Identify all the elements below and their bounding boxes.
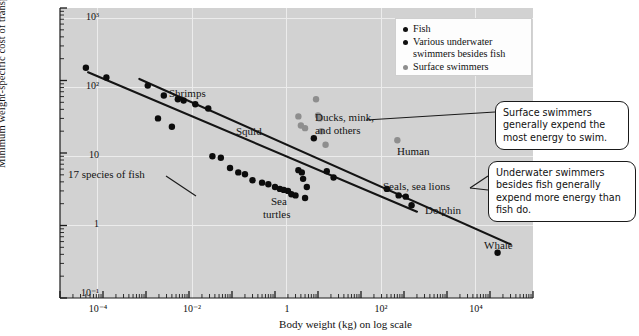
annotation-ducks-line2: and others	[315, 125, 361, 136]
legend-item-fish: Fish	[401, 23, 525, 34]
y-axis-title: Minimum weight-specific cost of transpor…	[0, 0, 7, 168]
legend-item-surface: Surface swimmers	[401, 61, 525, 72]
y-tick-label: 10²	[86, 80, 99, 91]
gridline-vertical	[192, 8, 193, 298]
annotation-seals: Seals, sea lions	[383, 181, 450, 192]
legend-label: Surface swimmers	[413, 61, 489, 72]
x-tick-label: 1	[266, 303, 308, 314]
annotation-shrimps: Shrimps	[169, 88, 206, 99]
x-axis-title: Body weight (kg) on log scale	[0, 318, 639, 330]
x-tick-label: 10⁻²	[171, 303, 213, 314]
annotation-fish-line: 17 species of fish	[68, 169, 145, 180]
gridline-horizontal	[60, 87, 533, 88]
chart-legend: Fish Various underwater swimmers besides…	[395, 18, 532, 76]
legend-marker-icon	[403, 27, 408, 32]
legend-label: Various underwater swimmers besides fish	[413, 36, 525, 59]
annotation-sea-turtles-line2: turtles	[263, 209, 291, 220]
y-tick-label: 10⁻¹	[81, 287, 99, 298]
x-tick-label: 10⁻⁴	[77, 303, 119, 314]
legend-item-underwater: Various underwater swimmers besides fish	[401, 36, 525, 59]
y-tick-label: 10³	[86, 11, 99, 22]
gridline-vertical	[381, 8, 382, 298]
legend-marker-icon	[403, 40, 408, 45]
x-tick-label: 10²	[360, 303, 402, 314]
gridline-horizontal	[60, 156, 533, 157]
figure-root: 10³ 10² 10 1 10⁻¹ 10⁻⁴ 10⁻² 1 10² 10⁴ Mi…	[0, 0, 639, 336]
x-tick-label: 10⁴	[455, 303, 497, 314]
legend-marker-icon	[403, 65, 408, 70]
callout-underwater-swimmers: Underwater swimmers besides fish general…	[488, 161, 636, 222]
annotation-sea-turtles-line1: Sea	[271, 196, 287, 207]
y-tick-label: 1	[94, 218, 99, 229]
callout-surface-swimmers: Surface swimmers generally expend the mo…	[495, 101, 629, 150]
gridline-vertical	[286, 8, 287, 298]
y-tick-label: 10	[89, 149, 99, 160]
annotation-human: Human	[397, 146, 429, 157]
gridline-horizontal	[60, 225, 533, 226]
annotation-whale: Whale	[484, 240, 513, 251]
legend-label: Fish	[413, 23, 431, 34]
annotation-squid: Squid	[236, 126, 262, 137]
annotation-ducks-line1: Ducks, mink,	[315, 112, 374, 123]
annotation-dolphin: Dolphin	[425, 205, 461, 216]
